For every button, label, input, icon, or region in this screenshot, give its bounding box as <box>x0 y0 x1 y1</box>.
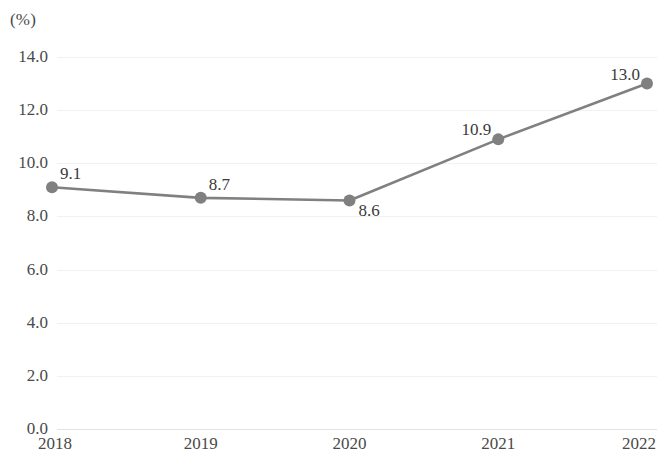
data-point-marker <box>195 192 207 204</box>
line-chart: (%) 0.02.04.06.08.010.012.014.0 20182019… <box>0 0 668 459</box>
data-point-label: 8.7 <box>209 175 230 195</box>
plot-area <box>0 0 668 459</box>
data-point-markers <box>46 78 653 207</box>
data-point-label: 10.9 <box>462 120 492 140</box>
data-point-label: 8.6 <box>359 201 380 221</box>
data-point-label: 13.0 <box>610 65 640 85</box>
data-point-marker <box>344 194 356 206</box>
data-point-marker <box>46 181 58 193</box>
data-point-marker <box>641 78 653 90</box>
data-point-label: 9.1 <box>60 164 81 184</box>
data-point-marker <box>492 133 504 145</box>
series-line <box>52 84 647 201</box>
